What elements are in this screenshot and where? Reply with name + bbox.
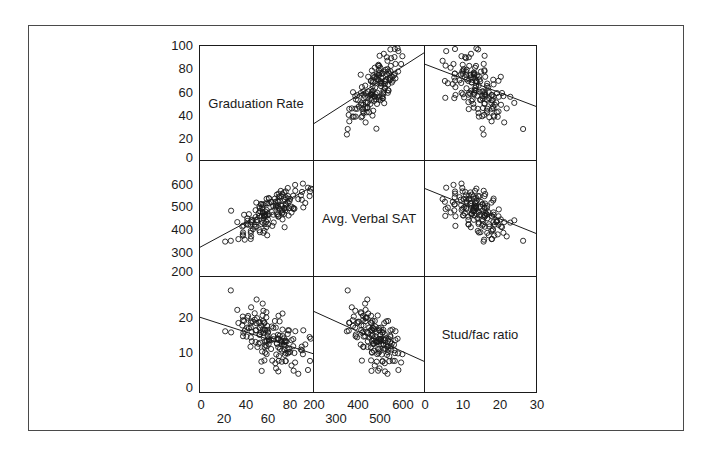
data-point bbox=[358, 72, 363, 77]
svg-text:300: 300 bbox=[325, 411, 347, 426]
data-point bbox=[464, 86, 469, 91]
svg-text:20: 20 bbox=[217, 411, 231, 426]
data-point bbox=[289, 338, 294, 343]
svg-text:600: 600 bbox=[171, 177, 193, 192]
data-point bbox=[223, 329, 228, 334]
data-point bbox=[466, 107, 471, 112]
panel-studfac-vs-sat bbox=[425, 181, 536, 244]
scatterplot-matrix: Graduation Rate Avg. Verbal SAT Stud/fac… bbox=[0, 0, 707, 453]
data-point bbox=[228, 288, 233, 293]
data-point bbox=[476, 114, 481, 119]
data-point bbox=[236, 320, 241, 325]
data-point bbox=[385, 58, 390, 63]
data-point bbox=[235, 307, 240, 312]
svg-text:60: 60 bbox=[179, 85, 193, 100]
data-point bbox=[363, 301, 368, 306]
data-point bbox=[392, 55, 397, 60]
svg-text:30: 30 bbox=[530, 397, 544, 412]
data-point bbox=[260, 301, 265, 306]
data-point bbox=[271, 220, 276, 225]
data-point bbox=[269, 346, 274, 351]
data-point bbox=[482, 53, 487, 58]
data-point bbox=[495, 232, 500, 237]
data-point bbox=[452, 46, 457, 51]
data-point bbox=[249, 305, 254, 310]
data-point bbox=[229, 208, 234, 213]
data-point bbox=[443, 63, 448, 68]
svg-text:200: 200 bbox=[171, 264, 193, 279]
data-point bbox=[480, 126, 485, 131]
data-point bbox=[374, 126, 379, 131]
data-point bbox=[293, 188, 298, 193]
data-point bbox=[453, 92, 458, 97]
data-point bbox=[396, 367, 401, 372]
data-point bbox=[305, 367, 310, 372]
data-point bbox=[308, 336, 313, 341]
data-point bbox=[474, 46, 479, 51]
data-point bbox=[443, 213, 448, 218]
data-point bbox=[451, 61, 456, 66]
data-point bbox=[399, 360, 404, 365]
data-point bbox=[296, 371, 301, 376]
svg-text:500: 500 bbox=[369, 411, 391, 426]
data-point bbox=[444, 185, 449, 190]
data-point bbox=[345, 288, 350, 293]
data-point bbox=[361, 96, 366, 101]
data-point bbox=[345, 126, 350, 131]
data-point bbox=[235, 220, 240, 225]
col0-x-axis-ticks: 0 40 80 20 60 bbox=[197, 397, 297, 426]
data-point bbox=[296, 197, 301, 202]
data-point bbox=[248, 344, 253, 349]
svg-text:80: 80 bbox=[179, 61, 193, 76]
data-point bbox=[444, 49, 449, 54]
data-point bbox=[293, 182, 298, 187]
panel-gradrate-vs-sat bbox=[200, 181, 313, 247]
data-point bbox=[443, 95, 448, 100]
data-point bbox=[521, 126, 526, 131]
data-point bbox=[282, 225, 287, 230]
panel-sat-vs-studfac bbox=[314, 288, 424, 377]
data-point bbox=[481, 132, 486, 137]
data-point bbox=[388, 63, 393, 68]
panel-gradrate-vs-studfac bbox=[200, 288, 313, 377]
data-point bbox=[451, 182, 456, 187]
data-point bbox=[440, 58, 445, 63]
diag-label-stud-fac-ratio: Stud/fac ratio bbox=[442, 327, 519, 342]
data-point bbox=[375, 313, 380, 318]
data-point bbox=[521, 238, 526, 243]
diag-label-graduation-rate: Graduation Rate bbox=[208, 96, 303, 111]
regression-line bbox=[200, 186, 313, 247]
svg-text:400: 400 bbox=[347, 397, 369, 412]
data-point bbox=[263, 350, 268, 355]
svg-text:10: 10 bbox=[456, 397, 470, 412]
data-point bbox=[300, 181, 305, 186]
svg-text:300: 300 bbox=[171, 245, 193, 260]
data-point bbox=[259, 359, 264, 364]
data-point bbox=[363, 307, 368, 312]
data-point bbox=[496, 109, 501, 114]
svg-text:40: 40 bbox=[179, 108, 193, 123]
panel-studfac-vs-gradrate bbox=[425, 46, 536, 137]
data-point bbox=[252, 311, 257, 316]
data-point bbox=[369, 368, 374, 373]
data-point bbox=[502, 120, 507, 125]
data-point bbox=[264, 352, 269, 357]
svg-text:0: 0 bbox=[197, 397, 204, 412]
svg-text:600: 600 bbox=[392, 397, 414, 412]
data-point bbox=[472, 65, 477, 70]
data-point bbox=[254, 297, 259, 302]
panel-sat-vs-gradrate bbox=[314, 46, 424, 137]
data-point bbox=[223, 239, 228, 244]
svg-text:20: 20 bbox=[179, 310, 193, 325]
data-point bbox=[496, 78, 501, 83]
data-point bbox=[307, 358, 312, 363]
data-point bbox=[276, 313, 281, 318]
row0-y-axis-ticks: 100 80 60 40 20 0 bbox=[171, 38, 193, 165]
data-point bbox=[459, 90, 464, 95]
svg-text:400: 400 bbox=[171, 222, 193, 237]
data-point bbox=[229, 330, 234, 335]
svg-text:200: 200 bbox=[303, 397, 325, 412]
svg-text:20: 20 bbox=[179, 131, 193, 146]
data-point bbox=[236, 237, 241, 242]
data-point bbox=[460, 92, 465, 97]
